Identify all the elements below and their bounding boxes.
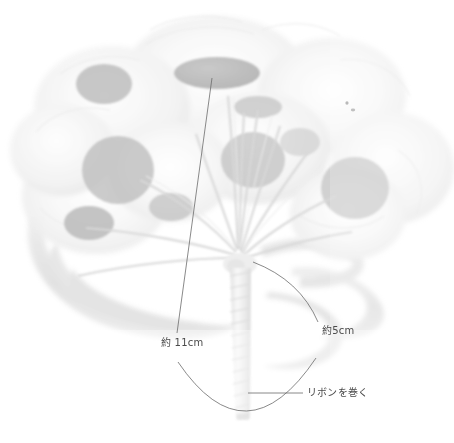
leader-line-11cm bbox=[177, 78, 212, 333]
annotated-bouquet-photo: 約 11cm 約5cm リボンを巻く bbox=[0, 0, 454, 443]
annotation-leader-lines bbox=[0, 0, 454, 443]
annotation-label-5cm: 約5cm bbox=[322, 325, 354, 337]
callout-arc-handle bbox=[178, 358, 316, 411]
leader-line-5cm bbox=[253, 262, 318, 322]
annotation-label-11cm: 約 11cm bbox=[161, 337, 203, 349]
annotation-label-wrap-ribbon: リボンを巻く bbox=[307, 387, 368, 399]
